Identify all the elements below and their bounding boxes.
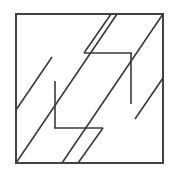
canvas-background xyxy=(0,0,178,176)
figure-canvas: Diagonal band square puzzle figure xyxy=(0,0,178,176)
